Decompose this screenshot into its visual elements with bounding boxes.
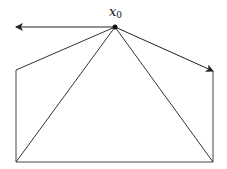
edge-x0-to-upper-left <box>16 27 115 70</box>
point-x0-dot <box>113 25 118 30</box>
label-subscript: 0 <box>116 10 122 20</box>
diagram-canvas <box>0 0 227 169</box>
arrow-x0-to-upper-right <box>115 27 213 71</box>
edge-x0-to-bottom-right <box>115 27 213 162</box>
edge-x0-to-bottom-left <box>16 27 115 162</box>
point-x0-label: x0 <box>109 5 122 20</box>
